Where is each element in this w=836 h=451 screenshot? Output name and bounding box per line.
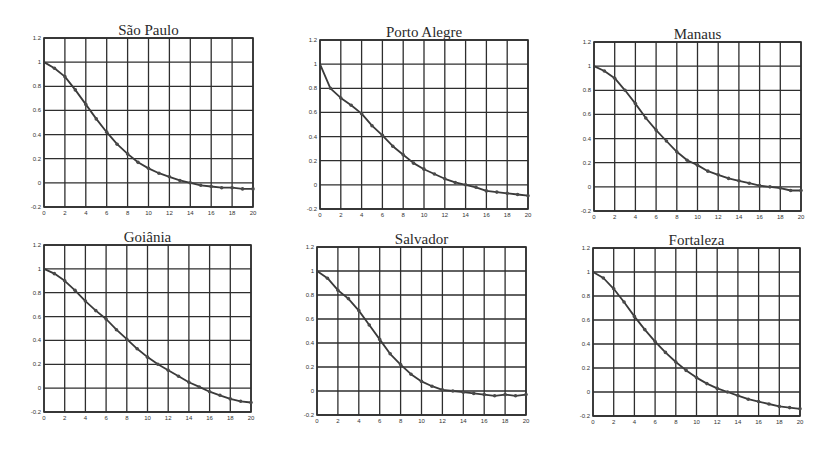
y-tick-label: 0.2 bbox=[582, 365, 591, 371]
data-point bbox=[430, 384, 434, 388]
data-point bbox=[360, 112, 364, 116]
y-tick-label: 0.6 bbox=[33, 314, 42, 320]
y-tick-label: 0.2 bbox=[583, 160, 592, 166]
data-markers bbox=[329, 86, 530, 197]
data-point bbox=[336, 288, 340, 292]
data-point bbox=[644, 116, 648, 120]
grid bbox=[44, 245, 251, 412]
x-tick-label: 0 bbox=[315, 418, 319, 424]
chart-panel-salvador: 02468101214161820-0.200.20.40.60.811.2Sa… bbox=[293, 223, 550, 439]
data-point bbox=[495, 190, 499, 194]
data-point bbox=[177, 374, 181, 378]
data-point bbox=[675, 150, 679, 154]
data-point bbox=[420, 380, 424, 384]
data-point bbox=[370, 124, 374, 128]
data-point bbox=[218, 394, 222, 398]
data-point bbox=[126, 152, 130, 156]
x-tick-label: 12 bbox=[714, 419, 721, 425]
data-point bbox=[53, 272, 57, 276]
data-point bbox=[241, 187, 245, 191]
data-point bbox=[757, 400, 761, 404]
data-point bbox=[251, 187, 255, 191]
y-tick-label: 1.2 bbox=[33, 242, 42, 248]
x-tick-label: 0 bbox=[591, 419, 595, 425]
x-tick-label: 6 bbox=[105, 210, 109, 216]
x-tick-label: 4 bbox=[357, 418, 361, 424]
y-tick-label: 0.8 bbox=[582, 293, 591, 299]
y-tick-label: 0.2 bbox=[306, 364, 315, 370]
y-tick-label: 0.4 bbox=[583, 136, 592, 142]
data-point bbox=[94, 309, 98, 313]
y-tick-label: 1.2 bbox=[582, 245, 591, 251]
x-tick-label: 16 bbox=[206, 415, 213, 421]
x-tick-label: 20 bbox=[523, 418, 530, 424]
y-tick-label: 0 bbox=[311, 388, 315, 394]
data-point bbox=[474, 185, 478, 189]
y-tick-label: 1 bbox=[588, 63, 592, 69]
data-point bbox=[249, 401, 253, 405]
x-tick-label: 16 bbox=[483, 212, 490, 218]
data-point bbox=[168, 175, 172, 179]
data-point bbox=[695, 376, 699, 380]
data-point bbox=[349, 103, 353, 107]
x-tick-label: 14 bbox=[462, 212, 469, 218]
data-point bbox=[209, 185, 213, 189]
y-tick-label: 0.8 bbox=[33, 290, 42, 296]
x-tick-label: 4 bbox=[84, 210, 88, 216]
data-point bbox=[664, 351, 668, 355]
data-point bbox=[453, 181, 457, 185]
data-point bbox=[612, 287, 616, 291]
x-tick-label: 8 bbox=[125, 415, 129, 421]
y-tick-label: 0.4 bbox=[33, 337, 42, 343]
data-point bbox=[747, 181, 751, 185]
data-point bbox=[53, 66, 57, 70]
grid bbox=[44, 38, 253, 207]
data-point bbox=[726, 390, 730, 394]
chart-title: Fortaleza bbox=[593, 233, 800, 248]
x-tick-label: 12 bbox=[441, 212, 448, 218]
chart-plot: 02468101214161820-0.200.20.40.60.811.2 bbox=[20, 221, 275, 436]
chart-panel-fortaleza: 02468101214161820-0.200.20.40.60.811.2Fo… bbox=[569, 224, 824, 440]
data-point bbox=[613, 76, 617, 80]
y-tick-label: 1 bbox=[38, 266, 42, 272]
data-point bbox=[505, 192, 509, 196]
data-point bbox=[737, 179, 741, 183]
x-tick-label: 18 bbox=[229, 210, 236, 216]
data-point bbox=[166, 368, 170, 372]
data-point bbox=[388, 352, 392, 356]
x-tick-label: 6 bbox=[654, 214, 658, 220]
x-tick-label: 20 bbox=[248, 415, 255, 421]
x-tick-label: 10 bbox=[693, 419, 700, 425]
x-tick-label: 0 bbox=[318, 212, 322, 218]
x-tick-label: 0 bbox=[42, 415, 46, 421]
data-point bbox=[230, 186, 234, 190]
data-point bbox=[326, 276, 330, 280]
y-tick-label: 0 bbox=[38, 180, 42, 186]
x-tick-label: 10 bbox=[694, 214, 701, 220]
data-point bbox=[208, 390, 212, 394]
chart-title: Porto Alegre bbox=[320, 25, 528, 40]
data-point bbox=[779, 186, 783, 190]
x-tick-label: 16 bbox=[756, 214, 763, 220]
y-tick-label: 0.6 bbox=[33, 107, 42, 113]
data-point bbox=[643, 328, 647, 332]
x-tick-label: 18 bbox=[777, 214, 784, 220]
chart-panel-goiania: 02468101214161820-0.200.20.40.60.811.2Go… bbox=[20, 221, 275, 436]
data-point bbox=[634, 102, 638, 106]
x-tick-label: 4 bbox=[84, 415, 88, 421]
x-tick-label: 18 bbox=[504, 212, 511, 218]
data-point bbox=[378, 338, 382, 342]
data-point bbox=[63, 75, 67, 79]
x-tick-label: 6 bbox=[653, 419, 657, 425]
x-tick-label: 4 bbox=[634, 214, 638, 220]
x-tick-label: 12 bbox=[715, 214, 722, 220]
chart-plot: 02468101214161820-0.200.20.40.60.811.2 bbox=[296, 16, 552, 233]
data-point bbox=[443, 177, 447, 181]
y-tick-label: 1.2 bbox=[306, 244, 315, 250]
data-point bbox=[623, 88, 627, 92]
data-point bbox=[187, 380, 191, 384]
data-point bbox=[706, 169, 710, 173]
data-point bbox=[84, 103, 88, 107]
data-point bbox=[451, 389, 455, 393]
y-tick-label: -0.2 bbox=[31, 204, 42, 210]
